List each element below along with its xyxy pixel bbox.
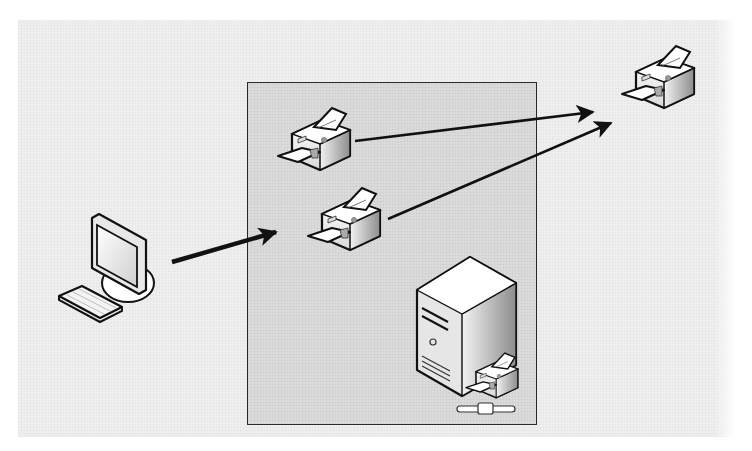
arrow-printer2-to-physical [388, 123, 611, 219]
arrow-client-to-server [172, 232, 276, 262]
printer-icon [278, 108, 350, 170]
arrow-printer1-to-physical [355, 112, 593, 141]
desktop-computer-icon [59, 214, 154, 322]
printer-icon [622, 46, 694, 108]
printer-icon [308, 188, 380, 250]
diagram-overlay [0, 0, 752, 451]
print-server-icon [417, 257, 518, 414]
